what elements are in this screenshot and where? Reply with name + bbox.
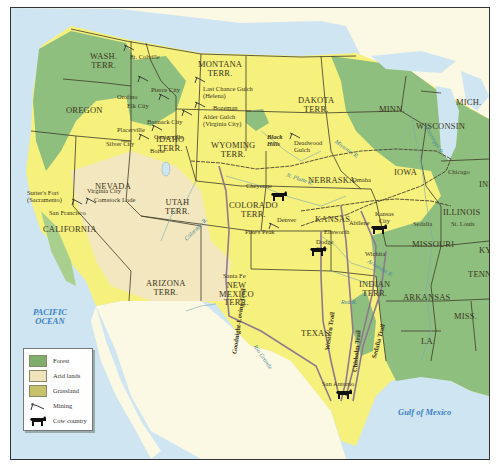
label-oregon: OREGON bbox=[66, 106, 103, 115]
label-tenn: TENN. bbox=[468, 270, 490, 279]
label-pacific: PACIFIC OCEAN bbox=[33, 308, 67, 325]
place-silver-city: Silver City bbox=[106, 141, 134, 148]
forest-swatch bbox=[29, 355, 47, 367]
legend-label-forest: Forest bbox=[53, 357, 69, 364]
place-sedalia: Sedalia bbox=[413, 221, 432, 228]
label-iowa: IOWA bbox=[394, 168, 417, 177]
mining-icon bbox=[138, 133, 150, 141]
place-centerville: Centerville bbox=[154, 134, 183, 141]
legend-item-cow: Cow country bbox=[29, 415, 87, 426]
place-cheyenne: Cheyenne bbox=[246, 183, 272, 190]
mining-icon bbox=[151, 124, 163, 132]
label-missouri: MISSOURI bbox=[412, 240, 454, 249]
mining-icon bbox=[85, 197, 97, 205]
label-montana: MONTANA TERR. bbox=[198, 60, 242, 77]
cow-icon bbox=[370, 223, 388, 235]
label-gulf: Gulf of Mexico bbox=[398, 408, 451, 417]
label-colorado: COLORADO TERR. bbox=[229, 201, 278, 218]
place-san-francisco: San Francisco bbox=[49, 210, 86, 217]
label-utah: UTAH TERR. bbox=[165, 198, 190, 215]
mining-icon bbox=[289, 132, 301, 140]
label-ind: IND. bbox=[479, 180, 490, 189]
label-indian: INDIAN TERR. bbox=[359, 280, 390, 297]
place-st-louis: St. Louis bbox=[451, 221, 474, 228]
place-ft-colville: Ft. Colville bbox=[130, 54, 160, 61]
label-illinois: ILLINOIS bbox=[443, 208, 480, 217]
place-boise: Boise bbox=[150, 148, 165, 155]
label-nebraska: NEBRASKA bbox=[308, 176, 355, 185]
grassland-swatch bbox=[29, 385, 47, 397]
mining-icon bbox=[194, 76, 206, 84]
place-last-chance: Last Chance Gulch (Helena) bbox=[203, 86, 253, 99]
cow-icon bbox=[335, 388, 353, 400]
legend-item-mining: Mining bbox=[29, 400, 72, 411]
label-miss: MISS. bbox=[454, 312, 477, 321]
place-deadwood: Deadwood Gulch bbox=[294, 140, 322, 153]
legend-item-forest: Forest bbox=[29, 355, 69, 366]
legend-label-mining: Mining bbox=[53, 402, 72, 409]
place-wichita: Wichita bbox=[365, 251, 385, 258]
place-abilene: Abilene bbox=[349, 220, 370, 227]
legend-label-cow: Cow country bbox=[53, 417, 87, 424]
cow-icon bbox=[309, 245, 327, 257]
mining-icon bbox=[71, 198, 83, 206]
great-salt-lake bbox=[162, 162, 170, 176]
legend-item-grassland: Grassland bbox=[29, 385, 79, 396]
river-red: Red R. bbox=[341, 299, 357, 305]
place-alder-gulch: Alder Gulch (Virginia City) bbox=[203, 114, 241, 127]
label-wyoming: WYOMING TERR. bbox=[211, 141, 255, 158]
place-elk-city: Elk City bbox=[127, 103, 149, 110]
label-kansas: KANSAS bbox=[315, 215, 350, 224]
place-san-antonio: San Antonio bbox=[322, 381, 354, 388]
place-sutters-fort: Sutter's Fort (Sacramento) bbox=[27, 190, 62, 203]
legend-label-grassland: Grassland bbox=[53, 387, 79, 394]
place-virginia-city-nv: Virginia City bbox=[87, 188, 121, 195]
label-la: LA. bbox=[421, 337, 435, 346]
place-omaha: Omaha bbox=[352, 177, 371, 184]
place-ellsworth: Ellsworth bbox=[324, 229, 349, 236]
label-mich: MICH. bbox=[456, 98, 481, 107]
label-arizona: ARIZONA TERR. bbox=[146, 279, 186, 296]
cow-icon bbox=[270, 190, 288, 202]
place-bozeman: Bozeman bbox=[213, 105, 238, 112]
arid-swatch bbox=[29, 370, 47, 382]
legend: Forest Arid lands Grassland Mining Cow c… bbox=[23, 348, 93, 431]
mining-icon bbox=[137, 75, 149, 83]
mining-icon bbox=[123, 44, 135, 52]
pickaxe-icon bbox=[29, 401, 45, 411]
place-santa-fe: Santa Fe bbox=[223, 273, 246, 280]
mining-icon bbox=[181, 109, 193, 117]
label-new-mexico: NEW MEXICO TERR. bbox=[219, 281, 254, 307]
label-dakota: DAKOTA TERR. bbox=[298, 96, 334, 113]
mining-icon bbox=[194, 101, 206, 109]
legend-label-arid: Arid lands bbox=[53, 372, 80, 379]
cow-icon bbox=[29, 415, 47, 427]
map-frame: WASH. TERR. OREGON CALIFORNIA NEVADA IDA… bbox=[10, 7, 490, 460]
label-ky: KY. bbox=[479, 246, 490, 255]
mining-icon bbox=[268, 222, 280, 230]
place-comstock: Comstock Lode bbox=[94, 197, 135, 204]
legend-item-arid: Arid lands bbox=[29, 370, 80, 381]
place-black-hills: Black Hills bbox=[267, 134, 283, 147]
label-california: CALIFORNIA bbox=[43, 225, 96, 234]
label-minn: MINN. bbox=[379, 105, 405, 114]
place-chicago: Chicago bbox=[448, 169, 470, 176]
place-orofino: Orofino bbox=[117, 94, 138, 101]
label-wash: WASH. TERR. bbox=[90, 52, 117, 69]
label-arkansas: ARKANSAS bbox=[403, 293, 450, 302]
mining-icon bbox=[158, 93, 170, 101]
